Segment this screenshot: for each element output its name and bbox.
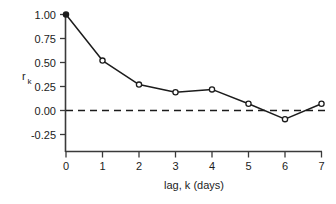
data-point xyxy=(100,58,105,63)
y-tick-label: 0.50 xyxy=(35,57,56,69)
x-tick-label: 3 xyxy=(172,160,178,172)
y-tick-label: 1.00 xyxy=(35,9,56,21)
x-tick-label: 1 xyxy=(99,160,105,172)
x-axis-title: lag, k (days) xyxy=(164,179,224,191)
x-tick-label: 5 xyxy=(245,160,251,172)
x-tick-label: 6 xyxy=(282,160,288,172)
x-tick-label: 2 xyxy=(136,160,142,172)
y-tick-label: 0.00 xyxy=(35,105,56,117)
x-tick-label: 4 xyxy=(209,160,215,172)
data-point xyxy=(282,117,287,122)
y-tick-label: 0.75 xyxy=(35,33,56,45)
chart-figure: 1.00 0.75 0.50 0.25 0.00 -0.25 r k 0 1 xyxy=(0,0,336,204)
x-tick-label: 7 xyxy=(318,160,324,172)
correlogram-plot: 1.00 0.75 0.50 0.25 0.00 -0.25 r k 0 1 xyxy=(0,0,336,204)
data-point xyxy=(63,12,68,17)
plot-background xyxy=(0,0,336,204)
y-axis-title-main: r xyxy=(22,70,26,82)
y-tick-label: 0.25 xyxy=(35,81,56,93)
data-point xyxy=(136,82,141,87)
data-point xyxy=(246,101,251,106)
data-point xyxy=(209,87,214,92)
data-point xyxy=(319,101,324,106)
y-tick-label: -0.25 xyxy=(31,129,56,141)
x-tick-label: 0 xyxy=(63,160,69,172)
data-point xyxy=(173,90,178,95)
